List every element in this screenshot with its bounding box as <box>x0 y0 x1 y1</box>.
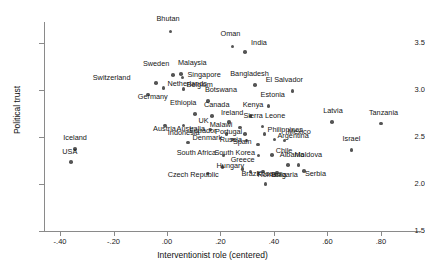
data-point[interactable] <box>273 138 277 142</box>
data-point-label: Botswana <box>205 86 237 94</box>
x-tick-label: -.40 <box>40 238 80 246</box>
data-point-label: Moldova <box>295 151 323 159</box>
data-point-label: Bangladesh <box>230 70 269 78</box>
x-tick-mark <box>167 231 168 236</box>
data-point[interactable] <box>270 153 274 157</box>
data-point-label: El Salvador <box>266 76 303 84</box>
y-tick-label: 2.0 <box>391 180 425 188</box>
y-axis-title: Political trust <box>12 60 22 160</box>
x-tick-label: .20 <box>200 238 240 246</box>
data-point[interactable] <box>263 132 267 136</box>
data-point-label: Mexico <box>288 128 311 136</box>
y-axis-line <box>44 22 45 231</box>
data-point[interactable] <box>330 120 334 124</box>
data-point-label: South Africa <box>177 149 216 157</box>
data-point[interactable] <box>283 139 287 143</box>
x-axis-title: Interventionist role (centered) <box>0 250 425 260</box>
data-point-label: Tanzania <box>369 109 398 117</box>
data-point-label: Ethiopia <box>170 99 196 107</box>
y-tick-label: 1.5 <box>391 227 425 235</box>
data-point-label: Romania <box>257 171 286 179</box>
data-point-label: Bhutan <box>156 15 179 23</box>
y-tick-label: 3.5 <box>391 39 425 47</box>
data-point-label: Germany <box>138 93 168 101</box>
y-tick-mark <box>39 90 44 91</box>
data-point-label: Iceland <box>63 134 87 142</box>
data-point-label: Ireland <box>221 109 243 117</box>
x-tick-mark <box>114 231 115 236</box>
data-point-label: Czech Republic <box>168 171 219 179</box>
x-tick-mark <box>60 231 61 236</box>
data-point[interactable] <box>350 148 354 152</box>
data-point-label: UK <box>199 117 209 125</box>
data-point[interactable] <box>264 182 268 186</box>
x-axis-line <box>44 231 421 232</box>
data-point[interactable] <box>253 83 257 87</box>
data-point[interactable] <box>257 154 261 158</box>
data-point[interactable] <box>267 104 271 108</box>
data-point-label: Latvia <box>323 107 342 115</box>
y-tick-mark <box>39 137 44 138</box>
data-point-label: Kenya <box>243 101 264 109</box>
y-tick-mark <box>39 43 44 44</box>
data-point-label: Israel <box>342 135 360 143</box>
data-point[interactable] <box>186 141 190 145</box>
data-point-label: Denmark <box>193 134 223 142</box>
data-point[interactable] <box>171 73 175 77</box>
y-tick-mark <box>39 184 44 185</box>
y-tick-label: 3.0 <box>391 86 425 94</box>
y-tick-label: 2.5 <box>391 133 425 141</box>
data-point[interactable] <box>379 122 383 126</box>
data-point[interactable] <box>162 86 166 90</box>
data-point[interactable] <box>261 125 265 129</box>
x-tick-label: .80 <box>361 238 401 246</box>
y-tick-mark <box>39 231 44 232</box>
x-tick-mark <box>327 231 328 236</box>
data-point-label: Spain <box>233 138 252 146</box>
data-point-label: India <box>251 39 267 47</box>
data-point[interactable] <box>256 143 260 147</box>
x-tick-label: .60 <box>307 238 347 246</box>
data-point[interactable] <box>169 30 173 34</box>
data-point-label: Switzerland <box>93 74 131 82</box>
data-point-label: USA <box>62 148 77 156</box>
x-tick-mark <box>220 231 221 236</box>
data-point[interactable] <box>291 89 295 93</box>
x-tick-label: .00 <box>147 238 187 246</box>
data-point[interactable] <box>297 163 301 167</box>
data-point[interactable] <box>243 132 247 136</box>
data-point-label: Singapore <box>188 71 221 79</box>
data-point-label: Malaysia <box>178 59 207 67</box>
data-point-label: Sweden <box>143 60 169 68</box>
data-point[interactable] <box>243 50 247 54</box>
data-point[interactable] <box>286 163 290 167</box>
data-point[interactable] <box>69 160 73 164</box>
data-point[interactable] <box>193 112 197 116</box>
x-tick-label: .40 <box>254 238 294 246</box>
data-point-label: Estonia <box>261 91 285 99</box>
data-point[interactable] <box>231 45 235 49</box>
data-point-label: Greece <box>231 156 255 164</box>
data-point-label: Oman <box>221 30 241 38</box>
x-tick-label: -.20 <box>94 238 134 246</box>
data-point-label: Sierra Leone <box>243 112 285 120</box>
x-tick-mark <box>274 231 275 236</box>
data-point-label: Serbia <box>305 170 326 178</box>
scatter-plot: Political trust Interventionist role (ce… <box>0 0 425 270</box>
data-point[interactable] <box>154 81 158 85</box>
data-point[interactable] <box>210 114 214 118</box>
x-tick-mark <box>381 231 382 236</box>
data-point[interactable] <box>182 87 186 91</box>
